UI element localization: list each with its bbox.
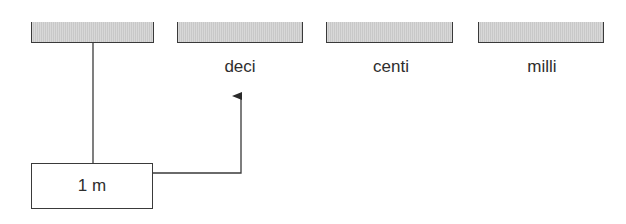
- source-box-label: 1 m: [78, 176, 106, 196]
- arrow-box-to-deci: [153, 96, 241, 173]
- source-box-1m: 1 m: [31, 163, 153, 209]
